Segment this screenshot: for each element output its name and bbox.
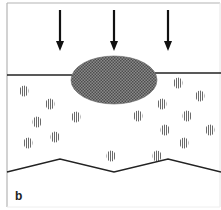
striped-particle [107,151,116,162]
striped-particle [134,111,143,122]
zigzag-bottom-boundary [7,159,221,172]
striped-particle [161,125,170,136]
down-arrow-icon [164,41,172,51]
elliptical-inclusion [71,56,157,104]
striped-particle [174,78,183,89]
striped-particle [183,111,192,122]
striped-particle [196,91,205,102]
striped-particle [46,99,55,110]
load-arrows [56,10,172,51]
panel-label: b [15,189,22,203]
striped-particle [72,112,81,123]
striped-particle [206,125,215,136]
down-arrow-icon [56,41,64,51]
striped-particle [33,117,42,128]
striped-particle [153,151,162,162]
diagram-canvas [0,0,221,210]
striped-particle [180,138,189,149]
striped-particle [24,138,33,149]
striped-particle [51,132,60,143]
down-arrow-icon [110,41,118,51]
striped-particle [20,86,29,97]
striped-particle [158,99,167,110]
